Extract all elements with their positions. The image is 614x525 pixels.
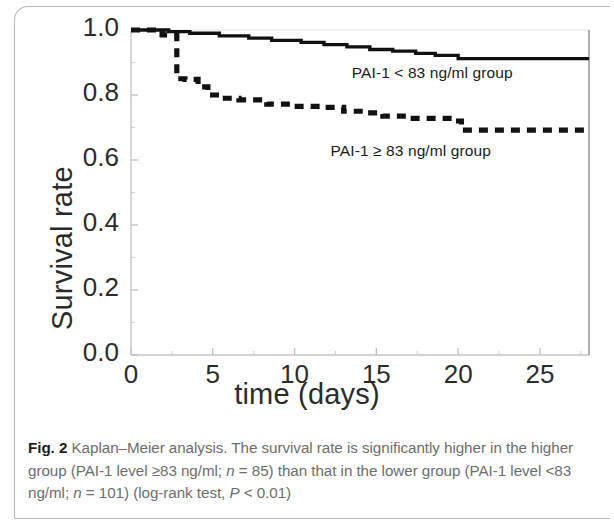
- caption-text-line1: Kaplan–Meier analysis. The survival rate…: [67, 439, 486, 456]
- caption-text-line2b: = 85) than that in the: [235, 462, 378, 479]
- y-tick-label: 0.6: [49, 142, 119, 173]
- x-tick-label: 20: [428, 359, 488, 390]
- y-axis-title: Survival rate: [46, 166, 79, 330]
- x-tick-label: 5: [183, 359, 243, 390]
- x-tick-label: 15: [346, 359, 406, 390]
- y-tick-label: 0.0: [49, 337, 119, 368]
- series-curve-low: [131, 30, 589, 59]
- caption-figure-number: Fig. 2: [28, 439, 67, 456]
- caption-italic-n-2: n: [73, 484, 81, 501]
- series-annotation-high: PAI-1 ≥ 83 ng/ml group: [331, 142, 491, 160]
- series-annotation-low: PAI-1 < 83 ng/ml group: [352, 64, 513, 82]
- chart-plot-area: Survival rate time (days) 0510152025 0.0…: [0, 0, 614, 430]
- figure-caption: Fig. 2 Kaplan–Meier analysis. The surviv…: [28, 437, 604, 505]
- y-tick-label: 1.0: [49, 12, 119, 43]
- caption-italic-p: P: [229, 484, 239, 501]
- x-tick-label: 25: [510, 359, 570, 390]
- caption-text-line3b: = 101) (log-rank test,: [82, 484, 230, 501]
- y-tick-label: 0.2: [49, 272, 119, 303]
- y-tick-label: 0.4: [49, 207, 119, 238]
- caption-text-line3c: < 0.01): [240, 484, 292, 501]
- caption-italic-n-1: n: [226, 462, 234, 479]
- y-tick-label: 0.8: [49, 77, 119, 108]
- x-tick-label: 10: [265, 359, 325, 390]
